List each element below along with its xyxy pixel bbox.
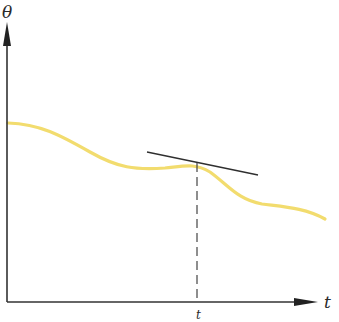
- x-axis-arrow-icon: [294, 298, 318, 306]
- marker-label: t: [196, 308, 201, 322]
- theta-vs-time-diagram: θ t t: [0, 0, 339, 322]
- tangent-line: [147, 152, 258, 175]
- y-axis-arrow-icon: [3, 22, 11, 46]
- y-axis-label: θ: [2, 2, 12, 22]
- x-axis-label: t: [324, 292, 331, 312]
- theta-curve: [8, 123, 325, 219]
